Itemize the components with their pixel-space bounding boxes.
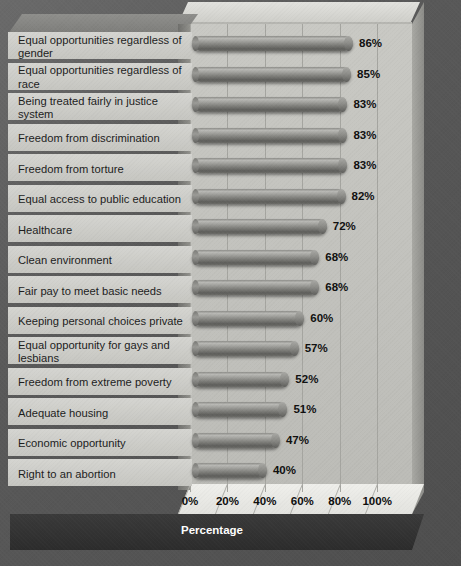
- bar: [192, 97, 347, 112]
- bar: [192, 402, 287, 417]
- bar: [192, 433, 280, 448]
- chart-canvas: Equal opportunities regardless of gender…: [0, 0, 461, 566]
- category-label-row: Healthcare: [8, 215, 192, 242]
- x-tick-label: 40%: [253, 495, 276, 507]
- bar-value-label: 86%: [359, 37, 382, 49]
- category-label-row: Right to an abortion: [8, 459, 192, 486]
- category-label-text: Adequate housing: [18, 407, 108, 420]
- category-label-row: Freedom from extreme poverty: [8, 368, 192, 395]
- category-label-text: Freedom from torture: [18, 163, 124, 176]
- plot-right-face: [412, 2, 424, 514]
- bar-value-label: 83%: [353, 159, 376, 171]
- category-label-text: Fair pay to meet basic needs: [18, 285, 162, 298]
- gridline-100: [377, 24, 378, 492]
- x-tick-label: 80%: [328, 495, 351, 507]
- bar-value-label: 83%: [353, 98, 376, 110]
- bar-value-label: 82%: [352, 190, 375, 202]
- category-label-row: Adequate housing: [8, 398, 192, 425]
- category-label-text: Freedom from discrimination: [18, 132, 160, 145]
- category-label-text: Being treated fairly in justice system: [18, 95, 192, 121]
- x-tick-label: 60%: [291, 495, 314, 507]
- category-label-row: Equal opportunity for gays and lesbians: [8, 337, 192, 364]
- bar-value-label: 52%: [295, 373, 318, 385]
- bar-value-label: 68%: [325, 281, 348, 293]
- category-label-row: Freedom from discrimination: [8, 124, 192, 151]
- x-tick-label: 20%: [216, 495, 239, 507]
- bar: [192, 67, 351, 82]
- bar: [192, 280, 319, 295]
- bar-value-label: 68%: [325, 251, 348, 263]
- category-label-text: Equal opportunities regardless of gender: [18, 34, 192, 60]
- bar-value-label: 83%: [353, 129, 376, 141]
- bar: [192, 250, 319, 265]
- category-label-text: Right to an abortion: [18, 468, 116, 481]
- category-label-row: Clean environment: [8, 246, 192, 273]
- bar-value-label: 47%: [286, 434, 309, 446]
- category-label-row: Equal opportunities regardless of gender: [8, 32, 192, 59]
- x-tick-label: 100%: [362, 495, 391, 507]
- bar: [192, 341, 299, 356]
- bar: [192, 158, 347, 173]
- bar: [192, 372, 289, 387]
- plot-top-lid: [178, 2, 420, 24]
- category-label-text: Keeping personal choices private: [18, 315, 183, 328]
- bar: [192, 189, 346, 204]
- bar-value-label: 51%: [293, 403, 316, 415]
- bar-value-label: 72%: [333, 220, 356, 232]
- bar-value-label: 57%: [305, 342, 328, 354]
- category-label-panel: Equal opportunities regardless of gender…: [8, 32, 192, 490]
- bar-value-label: 85%: [357, 68, 380, 80]
- category-label-text: Freedom from extreme poverty: [18, 376, 172, 389]
- category-label-text: Equal opportunities regardless of race: [18, 64, 192, 90]
- category-label-text: Economic opportunity: [18, 437, 126, 450]
- category-label-row: Economic opportunity: [8, 429, 192, 456]
- bar-value-label: 60%: [310, 312, 333, 324]
- label-panel-top-lid: [8, 14, 198, 34]
- category-label-row: Fair pay to meet basic needs: [8, 276, 192, 303]
- bar-value-label: 40%: [273, 464, 296, 476]
- category-label-text: Equal access to public education: [18, 193, 181, 206]
- category-label-text: Clean environment: [18, 254, 112, 267]
- bar: [192, 219, 327, 234]
- bar: [192, 311, 304, 326]
- x-axis-title: Percentage: [0, 524, 424, 536]
- bar: [192, 36, 353, 51]
- category-label-text: Equal opportunity for gays and lesbians: [18, 339, 192, 365]
- bar: [192, 128, 347, 143]
- x-tick-label: 0%: [182, 495, 199, 507]
- bar: [192, 463, 267, 478]
- category-label-row: Equal access to public education: [8, 185, 192, 212]
- category-label-row: Freedom from torture: [8, 154, 192, 181]
- category-label-row: Being treated fairly in justice system: [8, 93, 192, 120]
- category-label-text: Healthcare: [18, 224, 72, 237]
- category-label-row: Equal opportunities regardless of race: [8, 63, 192, 90]
- category-label-row: Keeping personal choices private: [8, 307, 192, 334]
